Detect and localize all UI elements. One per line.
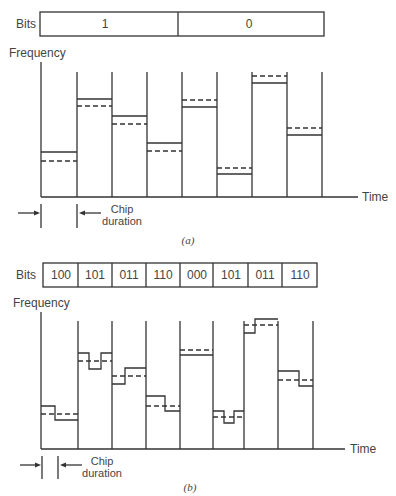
- dashed-levels-b: [41, 325, 313, 417]
- frequency-label-b: Frequency: [13, 296, 70, 310]
- time-label-a: Time: [362, 190, 389, 204]
- figure-a: Bits 1 0 Frequency Time: [9, 12, 389, 247]
- figure-b: Bits 100 101 011 110 000 101 011 110 Fre…: [13, 263, 377, 494]
- chip-duration-marker-b: [20, 456, 82, 479]
- chip-label-b-2: duration: [82, 467, 122, 479]
- chip-label-a-2: duration: [102, 215, 142, 227]
- bits-box-a: [40, 12, 324, 36]
- bit-b-2: 011: [119, 268, 138, 282]
- fhss-diagram: Bits 1 0 Frequency Time: [0, 0, 396, 496]
- caption-a: (a): [182, 234, 195, 247]
- bit-a-0: 1: [102, 17, 109, 31]
- bits-label-a: Bits: [16, 17, 36, 31]
- chip-label-b-1: Chip: [91, 455, 114, 467]
- bit-b-1: 101: [85, 268, 105, 282]
- chip-dividers-b: [78, 321, 313, 449]
- chip-label-a-1: Chip: [111, 203, 134, 215]
- bit-b-5: 101: [221, 268, 241, 282]
- chip-duration-marker-a: [18, 204, 101, 228]
- bit-b-0: 100: [51, 268, 71, 282]
- bit-b-3: 110: [153, 268, 172, 282]
- bit-a-1: 0: [246, 17, 253, 31]
- bit-b-6: 011: [255, 268, 274, 282]
- frequency-label-a: Frequency: [9, 46, 66, 60]
- solid-levels-b: [41, 319, 313, 423]
- bits-label-b: Bits: [16, 268, 36, 282]
- time-label-b: Time: [350, 442, 377, 456]
- bit-b-7: 110: [290, 268, 309, 282]
- bit-b-4: 000: [187, 268, 207, 282]
- chip-dividers-a: [77, 72, 322, 197]
- caption-b: (b): [184, 481, 197, 494]
